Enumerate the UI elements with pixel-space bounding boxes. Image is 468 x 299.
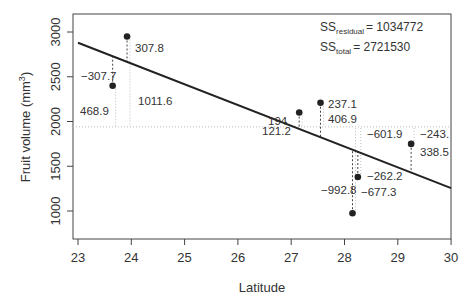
- y-axis-label: Fruit volume (mm3): [17, 72, 33, 182]
- x-tick-label: 28: [337, 250, 351, 265]
- point-value-label: 468.9: [80, 105, 109, 117]
- data-point: [355, 174, 362, 181]
- data-point: [408, 141, 415, 148]
- x-axis-label: Latitude: [239, 280, 285, 295]
- point-value-label: 1011.6: [138, 95, 172, 107]
- x-tick-label: 27: [284, 250, 298, 265]
- regression-line: [78, 43, 451, 188]
- point-value-label: 121.2: [262, 125, 291, 137]
- x-axis: 2324252627282930: [71, 239, 459, 265]
- data-point: [109, 82, 116, 89]
- ss-residual: SSresidual= 1034772: [320, 20, 423, 36]
- y-tick-label: 1000: [48, 197, 63, 226]
- y-axis: 10001500200025003000: [48, 18, 73, 226]
- point-value-label: −307.7: [81, 70, 117, 82]
- point-value-label: −601.9: [367, 128, 403, 140]
- x-tick-label: 26: [231, 250, 245, 265]
- data-point: [124, 33, 131, 40]
- data-point: [349, 210, 356, 217]
- point-value-label: −992.8: [321, 184, 357, 196]
- y-tick-label: 2500: [48, 62, 63, 91]
- y-tick-label: 3000: [48, 18, 63, 47]
- scatter-chart: 2324252627282930 10001500200025003000 −3…: [0, 0, 468, 299]
- point-value-label: −677.3: [361, 186, 397, 198]
- point-value-label: −262.2: [367, 170, 403, 182]
- ss-total: SStotal= 2721530: [320, 40, 411, 56]
- x-tick-label: 24: [124, 250, 138, 265]
- data-point: [317, 99, 324, 106]
- point-value-label: 338.5: [420, 146, 449, 158]
- x-tick-label: 30: [444, 250, 458, 265]
- x-tick-label: 29: [391, 250, 405, 265]
- x-tick-label: 23: [71, 250, 85, 265]
- y-tick-label: 1500: [48, 152, 63, 181]
- point-value-label: −243.: [420, 128, 449, 140]
- y-tick-label: 2000: [48, 107, 63, 136]
- point-value-label: 307.8: [135, 42, 164, 54]
- ss-annotation: SSresidual= 1034772 SStotal= 2721530: [320, 20, 423, 56]
- point-value-label: 237.1: [328, 98, 357, 110]
- point-value-label: 406.9: [328, 113, 357, 125]
- data-point: [296, 109, 303, 116]
- x-tick-label: 25: [177, 250, 191, 265]
